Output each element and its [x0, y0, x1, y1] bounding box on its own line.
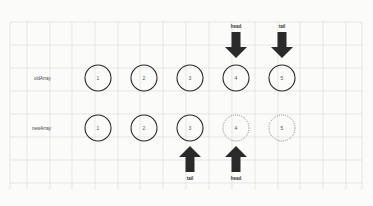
head-pointer-arrow-up-icon — [225, 146, 247, 172]
new-array-tail-label: tail — [187, 176, 194, 181]
row-label-old-array: oldArray — [34, 76, 51, 81]
old-array-node-2-value: 2 — [143, 75, 146, 81]
new-array-node-1-value: 1 — [97, 125, 100, 131]
new-array-node-3-value: 3 — [189, 125, 192, 131]
old-array-tail-label: tail — [279, 24, 286, 29]
new-array-node-5-value: 5 — [281, 125, 284, 131]
old-array-node-4-value: 4 — [235, 75, 238, 81]
diagram-shapes — [85, 32, 295, 172]
new-array-node-2-value: 2 — [143, 125, 146, 131]
new-array-node-4-value: 4 — [235, 125, 238, 131]
new-array-head-label: head — [231, 176, 242, 181]
old-array-head-label: head — [231, 24, 242, 29]
tail-pointer-arrow-up-icon — [179, 146, 201, 172]
row-label-new-array: newArray — [32, 126, 51, 131]
old-array-node-5-value: 5 — [281, 75, 284, 81]
old-array-node-3-value: 3 — [189, 75, 192, 81]
old-array-node-1-value: 1 — [97, 75, 100, 81]
